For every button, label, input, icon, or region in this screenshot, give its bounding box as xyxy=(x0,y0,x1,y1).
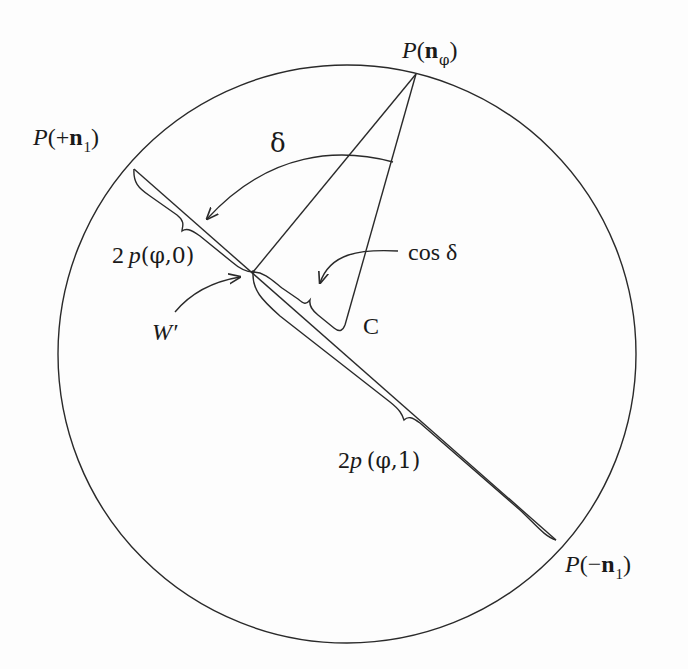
line-nphi-to-w xyxy=(253,74,416,272)
diagram-canvas: P(nφ) P(+n1) P(−n1) δ 2 p(φ,0) cos δ W′ … xyxy=(0,0,688,669)
w-prime-arrow xyxy=(175,277,240,312)
label-p-n-phi: P(nφ) xyxy=(402,38,458,62)
label-p-plus-n1: P(+n1) xyxy=(33,125,99,149)
label-c: C xyxy=(363,314,379,338)
label-2p-phi-0: 2 p(φ,0) xyxy=(112,243,194,267)
unit-circle xyxy=(58,65,636,643)
label-p-minus-n1: P(−n1) xyxy=(565,552,631,576)
chord-n1 xyxy=(134,169,556,540)
line-nphi-to-c xyxy=(345,74,416,325)
label-delta: δ xyxy=(270,130,286,156)
label-w-prime: W′ xyxy=(152,320,177,344)
cos-delta-arrow xyxy=(320,251,398,283)
label-cos-delta: cos δ xyxy=(408,240,457,264)
label-p: P xyxy=(402,37,417,63)
label-2p-phi-1: 2p (φ,1) xyxy=(338,448,420,472)
w-prime-point xyxy=(251,270,255,274)
delta-arc-arrow xyxy=(207,155,393,219)
brace-cos-delta xyxy=(253,272,345,331)
